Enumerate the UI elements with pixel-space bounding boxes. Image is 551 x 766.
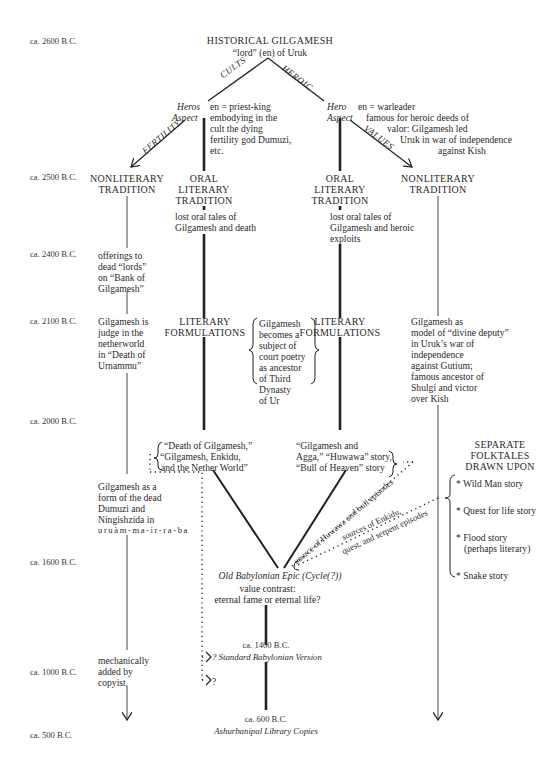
right-aspect-label-2: Aspect bbox=[327, 112, 353, 123]
date-1600: ca. 1600 B.C. bbox=[30, 557, 77, 568]
old-babylonian-epic-title: Old Babylonian Epic (Cycle(?)) bbox=[200, 570, 360, 581]
date-2100: ca. 2100 B.C. bbox=[30, 316, 77, 327]
folktale-snake: * Snake story bbox=[456, 570, 508, 581]
date-2400: ca. 2400 B.C. bbox=[30, 249, 77, 260]
right-aspect-label-1: Hero bbox=[327, 101, 346, 112]
standard-unknown-marker: ? bbox=[212, 676, 216, 687]
date-500: ca. 500 B.C. bbox=[30, 730, 73, 741]
root-subtitle: “lord” (en) of Uruk bbox=[190, 47, 350, 58]
ashurbanipal-date: ca. 600 B.C. bbox=[230, 714, 302, 725]
nonliterary-right-title-1: NONLITERARY bbox=[393, 173, 483, 185]
date-2500: ca. 2500 B.C. bbox=[30, 172, 77, 183]
nonliterary-left-title-1: NONLITERARY bbox=[82, 173, 172, 185]
date-2600: ca. 2600 B.C. bbox=[30, 36, 77, 47]
standard-date: ca. 1400 B.C. bbox=[230, 640, 302, 651]
nonliterary-left-title-2: TRADITION bbox=[82, 184, 172, 196]
folktale-quest-for-life: * Quest for life story bbox=[456, 505, 536, 516]
epic-value-contrast: value contrast: bbox=[200, 583, 335, 594]
epic-eternal-question: eternal fame or eternal life? bbox=[200, 594, 335, 605]
standard-babylonian-version: ? Standard Babylonian Version bbox=[212, 652, 322, 663]
ashurbanipal-library-copies: Ashurbanipal Library Copies bbox=[196, 726, 336, 737]
folktale-flood: * Flood story bbox=[456, 532, 507, 543]
date-2000: ca. 2000 B.C. bbox=[30, 416, 77, 427]
left-aspect-label-1: Heros bbox=[177, 101, 200, 112]
folktale-wild-man: * Wild Man story bbox=[456, 478, 523, 489]
nonliterary-right-title-2: TRADITION bbox=[393, 184, 483, 196]
left-aspect-label-2: Aspect bbox=[172, 112, 198, 123]
date-1000: ca. 1000 B.C. bbox=[30, 667, 77, 678]
folktale-flood-note: (perhaps literary) bbox=[464, 543, 530, 554]
root-title: HISTORICAL GILGAMESH bbox=[190, 35, 350, 47]
